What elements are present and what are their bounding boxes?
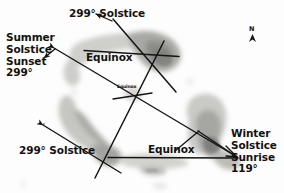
sightline-equinox-lower [108,158,238,159]
label-summer-solstice-sunset: Summer Solstice Sunset 299° [6,32,55,79]
feature-speck-northwest [71,90,77,95]
feature-speck-east [187,80,193,85]
feature-speck-south [153,183,167,189]
north-arrow-icon [249,34,256,42]
alignment-diagram-figure: 299° Solstice Summer Solstice Sunset 299… [0,0,284,193]
label-equinox-lower: Equinox [148,144,195,156]
compass-north-label: N [249,26,254,33]
feature-bar-south [146,169,158,172]
label-equinox-upper: Equinox [86,52,133,64]
label-winter-solstice-sunrise: Winter Solstice Sunrise 119° [231,128,277,175]
label-top-solstice: 299° Solstice [69,8,145,20]
label-lower-solstice: 299° Solstice [19,145,95,157]
feature-speck-southwest [20,182,25,186]
label-equinox-center: Equinox [117,84,136,89]
